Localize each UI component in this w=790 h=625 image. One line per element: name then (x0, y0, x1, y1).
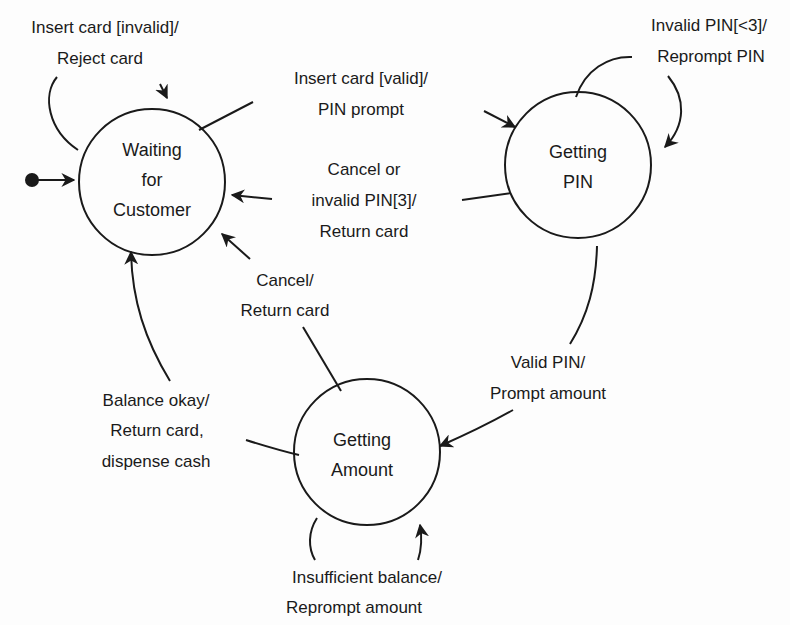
transition-cancel-return-card: Cancel/ Return card (222, 234, 341, 391)
state-label-line: Waiting (122, 140, 181, 160)
transition-label-line: Insert card [valid]/ (294, 69, 428, 88)
transition-label-line: dispense cash (102, 452, 211, 471)
transition-invalid-pin-less-3: Invalid PIN[<3]/ Reprompt PIN (576, 16, 767, 147)
transition-label-line: Prompt amount (490, 384, 606, 403)
transition-cancel-or-invalid-pin-3: Cancel or invalid PIN[3]/ Return card (232, 160, 511, 241)
transition-line (462, 193, 511, 200)
initial-state (25, 173, 74, 187)
transition-line (570, 246, 597, 344)
state-getting-amount: Getting Amount (294, 379, 440, 525)
transition-line (576, 57, 632, 97)
state-circle (505, 92, 651, 238)
transition-arrow (418, 525, 421, 560)
transition-label-line: Balance okay/ (103, 391, 210, 410)
state-label-line: Customer (113, 200, 191, 220)
transition-line (303, 327, 341, 391)
state-label-line: for (141, 170, 162, 190)
transition-line (310, 518, 317, 560)
transition-valid-pin: Valid PIN/ Prompt amount (440, 246, 606, 446)
transition-line (199, 102, 253, 130)
transition-label-line: Cancel or (328, 160, 401, 179)
transition-label-line: Reprompt amount (286, 598, 422, 617)
transition-label-line: Invalid PIN[<3]/ (651, 16, 767, 35)
transition-arrow (440, 410, 513, 446)
state-label-line: Amount (331, 460, 393, 480)
state-waiting-for-customer: Waiting for Customer (79, 109, 225, 255)
transition-label-line: Return card, (110, 421, 204, 440)
transition-label-line: invalid PIN[3]/ (312, 191, 417, 210)
state-label-line: PIN (563, 172, 593, 192)
transition-label-line: Reprompt PIN (657, 47, 765, 66)
transition-arrow (222, 234, 250, 259)
transition-label-line: Valid PIN/ (511, 353, 586, 372)
state-circle (294, 379, 440, 525)
transition-insert-card-invalid: Insert card [invalid]/ Reject card (31, 18, 179, 150)
transition-label-line: Cancel/ (256, 271, 314, 290)
transition-insert-card-valid: Insert card [valid]/ PIN prompt (199, 69, 515, 130)
state-label-line: Getting (549, 142, 607, 162)
transition-arrow (484, 111, 515, 127)
transition-arrow (232, 195, 272, 199)
transition-label-line: Insufficient balance/ (292, 568, 442, 587)
transition-label-line: Insert card [invalid]/ (31, 18, 179, 37)
transition-line (49, 77, 78, 150)
transition-arrow (665, 76, 681, 147)
state-label-line: Getting (333, 430, 391, 450)
state-getting-pin: Getting PIN (505, 92, 651, 238)
transition-line (246, 440, 299, 455)
initial-dot-icon (25, 173, 39, 187)
transition-arrow (160, 84, 167, 98)
transition-label-line: PIN prompt (318, 100, 404, 119)
transition-label-line: Reject card (57, 49, 143, 68)
transition-arrow (131, 252, 170, 381)
transition-label-line: Return card (241, 301, 330, 320)
transition-insufficient-balance: Insufficient balance/ Reprompt amount (286, 518, 442, 617)
state-diagram: Waiting for Customer Getting PIN Getting… (0, 0, 790, 625)
transition-label-line: Return card (320, 222, 409, 241)
